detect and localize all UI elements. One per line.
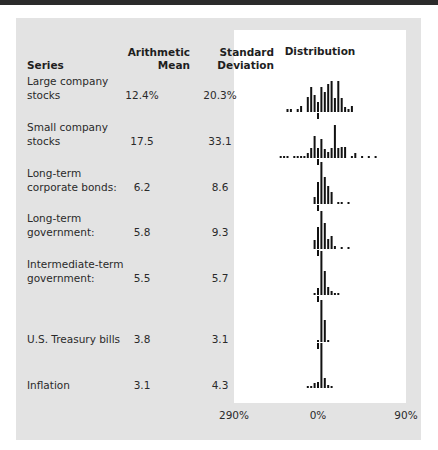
histogram-bar	[300, 106, 302, 112]
histogram-bar	[331, 236, 333, 249]
histogram-bar	[331, 386, 333, 388]
histogram-bar	[375, 156, 377, 158]
axis-label-center: 0%	[298, 409, 338, 421]
histogram-bar	[317, 340, 319, 342]
series-name-line1: Intermediate-term	[27, 257, 137, 271]
mean-value: 3.1	[122, 378, 162, 392]
histogram-bar	[324, 271, 326, 295]
histogram-bar	[317, 227, 319, 249]
histogram-bar	[327, 287, 329, 295]
series-name-line2: U.S. Treasury bills	[27, 332, 137, 346]
axis-label-right: 90%	[386, 409, 426, 421]
histogram-bar	[324, 223, 326, 249]
histogram-bar	[320, 300, 322, 342]
histogram-bar	[368, 156, 370, 158]
series-name: Intermediate-termgovernment:	[27, 257, 137, 285]
histogram-bar	[334, 293, 336, 295]
histogram-bar	[287, 109, 289, 112]
series-name: U.S. Treasury bills	[27, 318, 137, 346]
histogram-bar	[314, 136, 316, 158]
header-mean-line1: Arithmetic	[100, 46, 190, 59]
mean-value: 5.5	[122, 271, 162, 285]
histogram-bar	[320, 251, 322, 295]
histogram-bar	[303, 156, 305, 158]
series-name-line2: government:	[27, 271, 137, 285]
histogram-bar	[314, 383, 316, 388]
series-name-line1: Small company	[27, 120, 137, 134]
histogram-bar	[344, 147, 346, 158]
histogram-bar	[344, 107, 346, 112]
histogram-bar	[348, 109, 350, 112]
histogram-bar	[341, 147, 343, 158]
histogram-bar	[317, 148, 319, 158]
histogram-bar	[297, 156, 299, 158]
histogram-row	[307, 343, 333, 388]
mean-value: 3.8	[122, 332, 162, 346]
histogram-row	[314, 162, 350, 211]
histogram-bar	[307, 97, 309, 112]
histogram-bar	[354, 153, 356, 158]
histogram-bar	[324, 92, 326, 112]
histogram-bar	[331, 148, 333, 158]
histogram-bar	[351, 106, 353, 112]
mean-value: 5.8	[122, 225, 162, 239]
series-name-line2: Inflation	[27, 378, 137, 392]
histogram-bar	[290, 109, 292, 112]
series-name-line2: corporate bonds:	[27, 180, 137, 194]
histogram-bar	[317, 382, 319, 388]
histogram-bar	[320, 139, 322, 158]
histogram-bar	[314, 293, 316, 295]
histogram-bar	[320, 343, 322, 388]
histogram-bar	[334, 125, 336, 158]
series-name-line1	[27, 364, 137, 378]
histogram-bar	[293, 156, 295, 158]
histogram-bar	[327, 239, 329, 249]
histogram-bar	[324, 378, 326, 388]
histogram-bar	[334, 98, 336, 112]
series-name-line2: stocks	[27, 88, 137, 102]
series-name: Long-termgovernment:	[27, 211, 137, 239]
series-name: Large companystocks	[27, 74, 137, 102]
histogram-bar	[361, 156, 363, 158]
histogram-bar	[327, 186, 329, 204]
histogram-bar	[341, 247, 343, 249]
series-name-line1: Long-term	[27, 211, 137, 225]
histogram-bar	[327, 84, 329, 112]
header-series: Series	[27, 59, 64, 72]
histogram-bar	[310, 148, 312, 158]
histogram-bar	[351, 156, 353, 158]
histogram-bar	[331, 192, 333, 204]
histogram-bar	[314, 197, 316, 204]
histogram-row	[280, 125, 377, 165]
histogram-bar	[310, 386, 312, 388]
histogram-bar	[324, 177, 326, 204]
top-bar	[0, 0, 438, 5]
histogram-bar	[337, 202, 339, 204]
series-name-line1: Long-term	[27, 166, 137, 180]
histogram-bar	[280, 156, 282, 158]
histogram-bar	[341, 98, 343, 112]
histogram-bar	[341, 202, 343, 204]
histogram-bar	[348, 247, 350, 249]
histogram-row	[314, 251, 340, 302]
histogram-bar	[300, 156, 302, 158]
histogram-bar	[348, 202, 350, 204]
histogram-bar	[317, 102, 319, 112]
histogram-bar	[320, 162, 322, 204]
histogram-bar	[337, 81, 339, 112]
histogram-bar	[317, 182, 319, 204]
histogram-bar	[307, 386, 309, 388]
series-name: Long-termcorporate bonds:	[27, 166, 137, 194]
series-name-line2: stocks	[27, 134, 137, 148]
histogram-bar	[324, 320, 326, 342]
histogram-row	[287, 81, 353, 119]
histogram-bar	[314, 95, 316, 112]
histogram-bar	[334, 246, 336, 249]
distribution-histograms	[234, 30, 406, 403]
histogram-bar	[320, 87, 322, 112]
histogram-bar	[337, 293, 339, 295]
mean-value: 17.5	[122, 134, 162, 148]
series-name-line1	[27, 318, 137, 332]
histogram-bar	[317, 288, 319, 295]
histogram-bar	[314, 240, 316, 249]
